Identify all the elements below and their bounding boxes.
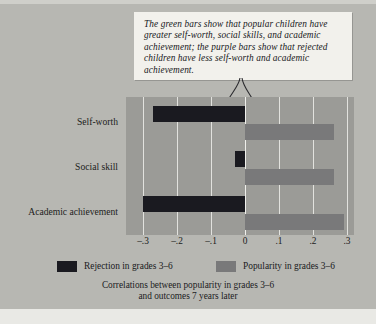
bar-rejection-self-worth <box>153 106 245 122</box>
plot-area <box>126 97 354 235</box>
gridline-0.3 <box>347 97 348 235</box>
legend-label-popularity: Popularity in grades 3–6 <box>243 261 335 271</box>
figure-caption-line-2: and outcomes 7 years later <box>0 291 376 302</box>
annotation-callout: The green bars show that popular childre… <box>134 12 352 80</box>
page-bottom-strip <box>0 309 376 324</box>
legend-swatch-rejection-icon <box>57 261 77 272</box>
bar-rejection-social-skill <box>235 151 245 167</box>
bar-popularity-self-worth <box>245 124 334 140</box>
bar-popularity-academic-achievement <box>245 214 344 230</box>
category-label-social-skill: Social skill <box>75 161 118 172</box>
tick-label--0.3: –.3 <box>137 236 149 246</box>
legend-item-popularity: Popularity in grades 3–6 <box>216 258 335 274</box>
tick-label-0.2: .2 <box>309 236 316 246</box>
chart-legend: Rejection in grades 3–6 Popularity in gr… <box>0 258 376 278</box>
tick-label-0: 0 <box>243 236 248 246</box>
legend-item-rejection: Rejection in grades 3–6 <box>57 258 173 274</box>
bar-popularity-social-skill <box>245 169 334 185</box>
tick-label-0.1: .1 <box>275 236 282 246</box>
category-axis-labels: Self-worth Social skill Academic achieve… <box>0 97 122 235</box>
value-axis-ticks: –.3 –.2 –.1 0 .1 .2 .3 <box>126 236 354 250</box>
bar-rejection-academic-achievement <box>143 196 245 212</box>
category-label-self-worth: Self-worth <box>77 116 118 127</box>
gridline--0.3 <box>143 97 144 235</box>
tick-label--0.2: –.2 <box>171 236 183 246</box>
tick-label--0.1: –.1 <box>205 236 217 246</box>
legend-label-rejection: Rejection in grades 3–6 <box>84 261 173 271</box>
figure-container: The green bars show that popular childre… <box>0 0 376 324</box>
figure-caption: Correlations between popularity in grade… <box>0 280 376 303</box>
category-label-academic-achievement: Academic achievement <box>28 206 118 217</box>
legend-swatch-popularity-icon <box>216 261 236 272</box>
tick-label-0.3: .3 <box>343 236 350 246</box>
figure-caption-line-1: Correlations between popularity in grade… <box>0 280 376 291</box>
annotation-callout-text: The green bars show that popular childre… <box>144 19 343 76</box>
